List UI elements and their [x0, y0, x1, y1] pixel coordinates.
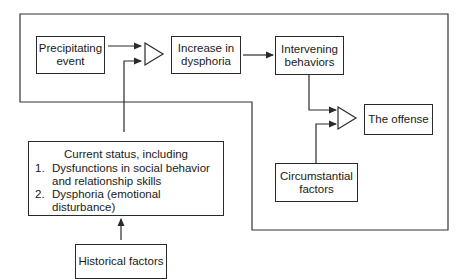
arrow-circumstantial-to-sum [316, 124, 336, 163]
status-item-2: 2. Dysphoria (emotional disturbance) [35, 188, 217, 214]
item-text: Dysphoria (emotional disturbance) [52, 188, 217, 214]
node-circumstantial-factors: Circumstantial factors [275, 163, 358, 202]
arrow-intervening-to-sum [309, 74, 336, 110]
item-text: and relationship skills [52, 175, 161, 187]
node-increase-in-dysphoria: Increase in dysphoria [171, 36, 241, 74]
item-number: 2. [35, 188, 52, 214]
node-label: Increase in [178, 42, 234, 55]
summing-junction-1 [145, 43, 163, 65]
arrow-status-to-sum [124, 61, 141, 132]
status-heading: Current status, including [35, 148, 217, 161]
item-text: Dysfunctions in social behavior [52, 162, 210, 174]
node-label: event [39, 55, 102, 68]
node-label: Intervening [281, 43, 338, 56]
node-label: behaviors [281, 56, 338, 69]
node-precipitating-event: Precipitating event [36, 36, 105, 74]
node-intervening-behaviors: Intervening behaviors [275, 36, 344, 75]
node-label: factors [280, 183, 353, 196]
node-current-status: Current status, including 1. Dysfunction… [28, 141, 224, 216]
node-the-offense: The offense [364, 104, 433, 135]
node-label: dysphoria [178, 55, 234, 68]
summing-junction-2 [338, 107, 356, 129]
node-label: Circumstantial [280, 170, 353, 183]
item-number: 1. [35, 162, 52, 188]
node-historical-factors: Historical factors [75, 244, 167, 279]
node-label: Historical factors [79, 255, 164, 268]
status-item-1: 1. Dysfunctions in social behavior and r… [35, 162, 217, 188]
node-label: The offense [368, 113, 429, 126]
node-label: Precipitating [39, 42, 102, 55]
